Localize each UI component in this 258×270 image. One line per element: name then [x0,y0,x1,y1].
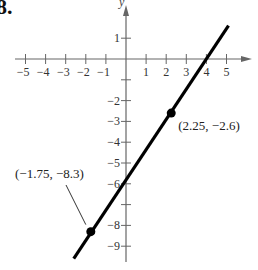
data-point [167,109,176,118]
x-tick-label: 2 [163,65,169,79]
ticks: −5−4−3−2−1123451−2−3−4−5−6−8−9 [17,31,230,253]
x-axis-arrow-icon [241,56,252,62]
point-label: (2.25, −2.6) [178,118,240,133]
y-tick-label: −6 [107,177,120,191]
y-tick-label: −5 [107,156,120,170]
data-points: (2.25, −2.6)(−1.75, −8.3) [15,109,240,237]
y-tick-label: −8 [107,218,120,232]
y-axis-label: y [118,0,125,9]
x-tick-label: 3 [183,65,189,79]
y-tick-label: −9 [107,239,120,253]
x-tick-label: −4 [37,65,50,79]
chart: y −5−4−3−2−1123451−2−3−4−5−6−8−9 (2.25, … [0,0,258,270]
y-tick-label: −3 [107,114,120,128]
x-tick-label: −2 [77,65,90,79]
y-tick-label: −2 [107,94,120,108]
y-tick-label: 1 [114,31,120,45]
data-line [74,26,229,259]
x-tick-label: 1 [143,65,149,79]
x-tick-label: −5 [17,65,30,79]
x-tick-label: 4 [203,65,209,79]
point-label: (−1.75, −8.3) [15,166,84,181]
data-point [86,227,95,236]
x-tick-label: −3 [57,65,70,79]
y-tick-label: −4 [107,135,120,149]
x-tick-label: 5 [224,65,230,79]
x-tick-label: −1 [97,65,110,79]
leader-line [66,185,86,225]
series-line [74,26,229,259]
